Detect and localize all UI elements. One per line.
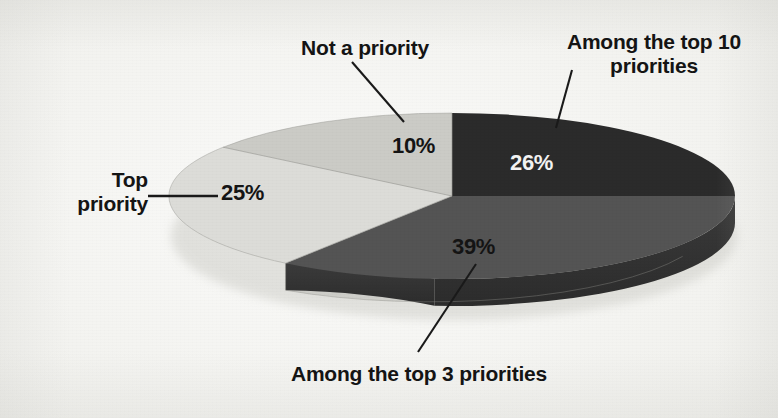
label-top-priority: Top priority <box>20 168 148 215</box>
value-label-not-a-priority: 10% <box>392 133 435 159</box>
chart-canvas: Among the top 10 priorities Not a priori… <box>0 0 778 418</box>
label-among-top-10-priorities: Among the top 10 priorities <box>538 30 770 77</box>
pie-slice-top10 <box>452 113 735 196</box>
leader-line-not-a-priority <box>352 62 404 122</box>
label-not-a-priority: Not a priority <box>262 36 468 60</box>
leader-line-top10 <box>556 70 572 128</box>
value-label-top-priority: 25% <box>221 180 264 206</box>
label-among-top-3-priorities: Among the top 3 priorities <box>228 362 610 386</box>
value-label-top10: 26% <box>510 150 553 176</box>
value-label-top3: 39% <box>452 234 495 260</box>
